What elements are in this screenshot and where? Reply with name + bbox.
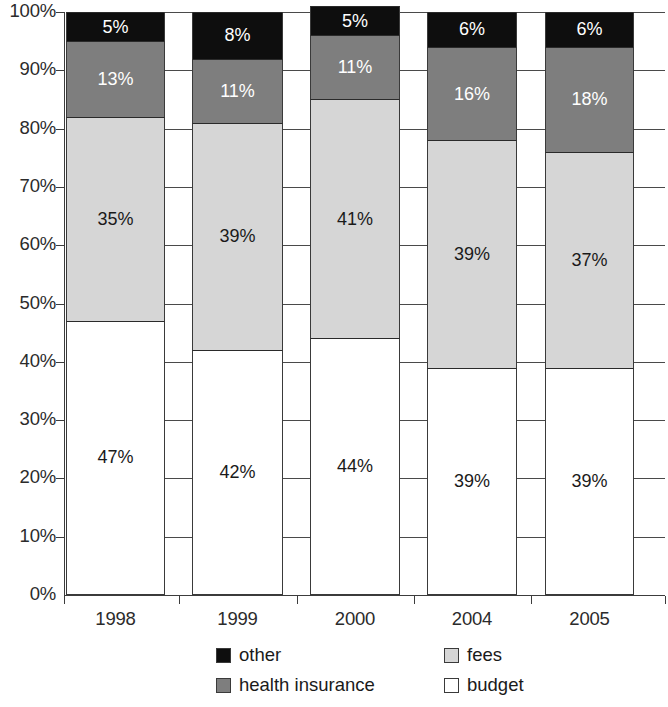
bar-group[interactable]: 47%35%13%5%	[66, 12, 165, 595]
gridline	[634, 537, 665, 538]
gridline	[165, 478, 192, 479]
legend-label-health-insurance: health insurance	[239, 674, 375, 696]
bar-group[interactable]: 42%39%11%8%	[192, 12, 283, 595]
x-axis-tick-mark	[64, 596, 65, 604]
y-axis-tick-label: 80%	[4, 119, 56, 138]
legend-item-budget[interactable]: budget	[444, 674, 524, 696]
bar-segment-fees[interactable]: 37%	[545, 152, 634, 368]
gridline	[634, 12, 665, 13]
x-axis-tick-label: 1998	[54, 608, 177, 630]
bar-segment-other[interactable]: 5%	[66, 12, 165, 41]
bar-segment-budget[interactable]: 47%	[66, 321, 165, 595]
bar-segment-value-label: 41%	[337, 209, 373, 230]
bar-segment-value-label: 47%	[97, 447, 133, 468]
legend-label-budget: budget	[467, 674, 524, 696]
y-axis-tick-label: 60%	[4, 235, 56, 254]
bar-segment-value-label: 18%	[571, 89, 607, 110]
bar-segment-value-label: 5%	[102, 17, 128, 38]
legend-item-other[interactable]: other	[216, 644, 281, 666]
bar-segment-value-label: 8%	[224, 25, 250, 46]
gridline	[283, 187, 310, 188]
gridline	[517, 362, 545, 363]
bar-segment-health-insurance[interactable]: 18%	[545, 47, 634, 152]
bar-segment-value-label: 6%	[576, 19, 602, 40]
bar-segment-fees[interactable]: 35%	[66, 117, 165, 321]
x-axis-tick-mark	[297, 596, 298, 604]
gridline	[165, 245, 192, 246]
bar-segment-other[interactable]: 6%	[427, 12, 517, 47]
bar-segment-fees[interactable]: 39%	[427, 140, 517, 367]
gridline	[517, 70, 545, 71]
y-axis-tick-mark	[56, 129, 64, 130]
bar-segment-health-insurance[interactable]: 16%	[427, 47, 517, 140]
y-axis-tick-label: 100%	[4, 2, 56, 21]
gridline	[165, 304, 192, 305]
gridline	[165, 12, 192, 13]
gridline	[517, 537, 545, 538]
bar-segment-budget[interactable]: 39%	[545, 368, 634, 595]
legend-item-health-insurance[interactable]: health insurance	[216, 674, 375, 696]
gridline	[634, 70, 665, 71]
gridline	[517, 187, 545, 188]
gridline	[517, 245, 545, 246]
legend-label-fees: fees	[467, 644, 502, 666]
x-axis-tick-label: 2005	[533, 608, 646, 630]
y-axis-tick-label: 50%	[4, 294, 56, 313]
bar-segment-value-label: 13%	[97, 69, 133, 90]
x-axis-tick-mark	[179, 596, 180, 604]
bar-group[interactable]: 39%39%16%6%	[427, 12, 517, 595]
y-axis-tick-mark	[56, 478, 64, 479]
gridline	[283, 537, 310, 538]
bar-segment-budget[interactable]: 42%	[192, 350, 283, 595]
gridline	[283, 129, 310, 130]
bar-group[interactable]: 44%41%11%5%	[310, 12, 400, 595]
y-axis-tick-label: 20%	[4, 468, 56, 487]
bar-segment-value-label: 37%	[571, 250, 607, 271]
bar-group[interactable]: 39%37%18%6%	[545, 12, 634, 595]
bar-segment-value-label: 16%	[454, 84, 490, 105]
bar-segment-other[interactable]: 5%	[310, 6, 400, 35]
x-axis-line	[64, 595, 665, 596]
bar-segment-other[interactable]: 6%	[545, 12, 634, 47]
gridline	[517, 304, 545, 305]
bar-segment-health-insurance[interactable]: 13%	[66, 41, 165, 117]
x-axis-tick-label: 2000	[298, 608, 412, 630]
gridline	[634, 362, 665, 363]
bar-segment-value-label: 6%	[459, 19, 485, 40]
bar-segment-fees[interactable]: 41%	[310, 99, 400, 338]
gridline	[165, 362, 192, 363]
bar-segment-value-label: 11%	[220, 81, 255, 102]
gridline	[634, 478, 665, 479]
gridline	[165, 420, 192, 421]
gridline	[283, 304, 310, 305]
bar-segment-health-insurance[interactable]: 11%	[310, 35, 400, 99]
x-axis-tick-label: 2004	[415, 608, 529, 630]
plot-area: 47%35%13%5%42%39%11%8%44%41%11%5%39%39%1…	[64, 12, 665, 595]
bar-segment-value-label: 35%	[97, 209, 133, 230]
legend-swatch-budget-icon	[444, 678, 459, 693]
legend-swatch-other-icon	[216, 648, 231, 663]
gridline	[165, 129, 192, 130]
gridline	[634, 129, 665, 130]
bar-segment-budget[interactable]: 44%	[310, 338, 400, 595]
bar-segment-other[interactable]: 8%	[192, 12, 283, 59]
gridline	[283, 420, 310, 421]
bar-segment-fees[interactable]: 39%	[192, 123, 283, 350]
legend-item-fees[interactable]: fees	[444, 644, 502, 666]
gridline	[400, 12, 427, 13]
gridline	[634, 245, 665, 246]
y-axis-tick-mark	[56, 420, 64, 421]
bar-segment-value-label: 42%	[219, 462, 255, 483]
gridline	[283, 362, 310, 363]
y-axis-tick-label: 70%	[4, 177, 56, 196]
y-axis-tick-mark	[56, 187, 64, 188]
y-axis-tick-label: 40%	[4, 352, 56, 371]
gridline	[165, 537, 192, 538]
y-axis-tick-labels: 0%10%20%30%40%50%60%70%80%90%100%	[0, 0, 56, 707]
gridline	[517, 129, 545, 130]
legend-swatch-fees-icon	[444, 648, 459, 663]
gridline	[400, 362, 427, 363]
gridline	[400, 70, 427, 71]
bar-segment-health-insurance[interactable]: 11%	[192, 59, 283, 123]
bar-segment-budget[interactable]: 39%	[427, 368, 517, 595]
